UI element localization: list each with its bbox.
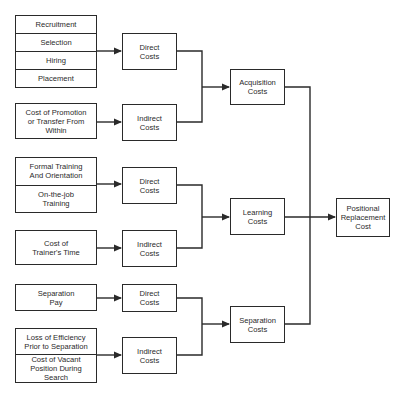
learning-direct-costs: Direct Costs (122, 167, 177, 204)
separation-costs-label: Separation Costs (231, 307, 284, 342)
formal-training-node: Formal Training And Orientation (16, 158, 96, 185)
separation-indirect-sources: Loss of Efficiency Prior to Separation C… (15, 328, 97, 383)
selection-node: Selection (16, 33, 96, 51)
learning-costs-node: Learning Costs (230, 198, 285, 235)
learning-direct-sources: Formal Training And Orientation On-the-j… (15, 157, 97, 213)
acquisition-costs-node: Acquisition Costs (230, 69, 285, 105)
indirect-costs-label: Indirect Costs (123, 105, 176, 140)
acquisition-direct-sources: Recruitment Selection Hiring Placement (15, 15, 97, 88)
on-the-job-training-node: On-the-job Training (16, 185, 96, 213)
direct-costs-label: Direct Costs (123, 168, 176, 203)
acquisition-indirect-sources: Cost of Promotion or Transfer From Withi… (15, 103, 97, 139)
separation-direct-sources: Separation Pay (15, 284, 97, 311)
learning-indirect-sources: Cost of Trainer's Time (15, 230, 97, 265)
learning-costs-label: Learning Costs (231, 199, 284, 234)
promotion-transfer-node: Cost of Promotion or Transfer From Withi… (16, 104, 96, 138)
hiring-node: Hiring (16, 51, 96, 69)
acquisition-indirect-costs: Indirect Costs (122, 104, 177, 141)
positional-replacement-cost-node: Positional Replacement Cost (336, 198, 390, 237)
separation-direct-costs: Direct Costs (122, 284, 177, 312)
direct-costs-label: Direct Costs (123, 34, 176, 69)
separation-costs-node: Separation Costs (230, 306, 285, 343)
direct-costs-label: Direct Costs (123, 285, 176, 311)
indirect-costs-label: Indirect Costs (123, 231, 176, 266)
recruitment-node: Recruitment (16, 16, 96, 33)
positional-replacement-cost-label: Positional Replacement Cost (337, 199, 389, 236)
acquisition-direct-costs: Direct Costs (122, 33, 177, 70)
trainer-time-node: Cost of Trainer's Time (16, 231, 96, 264)
separation-pay-node: Separation Pay (16, 285, 96, 310)
acquisition-costs-label: Acquisition Costs (231, 70, 284, 104)
placement-node: Placement (16, 69, 96, 87)
loss-of-efficiency-node: Loss of Efficiency Prior to Separation (16, 329, 96, 354)
vacant-position-node: Cost of Vacant Position During Search (16, 354, 96, 382)
indirect-costs-label: Indirect Costs (123, 338, 176, 373)
learning-indirect-costs: Indirect Costs (122, 230, 177, 267)
separation-indirect-costs: Indirect Costs (122, 337, 177, 374)
